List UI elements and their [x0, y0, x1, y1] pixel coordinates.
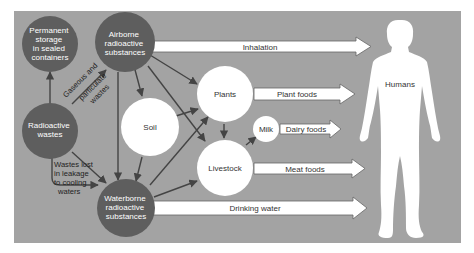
svg-text:Permanent storage: Permanent storage in sealed containers [29, 26, 70, 62]
svg-text:Plants: Plants [214, 90, 236, 99]
node-airborne-substances: Airborne radioactive substances [95, 12, 155, 72]
svg-text:to cooling: to cooling [54, 178, 87, 187]
svg-text:waters: waters [57, 187, 81, 196]
svg-text:Dairy foods: Dairy foods [286, 125, 326, 134]
node-radioactive-wastes: Radioactive wastes [22, 103, 78, 159]
radioactive-pathways-diagram: Humans Inhalation Plant foods Dairy food… [0, 0, 474, 253]
humans-label: Humans [385, 80, 415, 89]
svg-text:Meat foods: Meat foods [285, 165, 325, 174]
node-livestock: Livestock [197, 140, 253, 196]
svg-text:Milk: Milk [259, 125, 274, 134]
node-soil: Soil [121, 98, 179, 156]
node-permanent-storage: Permanent storage in sealed containers [22, 16, 78, 72]
svg-text:Inhalation: Inhalation [243, 43, 278, 52]
node-plants: Plants [197, 66, 253, 122]
svg-text:Soil: Soil [143, 123, 157, 132]
svg-text:Wastes lost: Wastes lost [54, 160, 94, 169]
svg-text:Airborne radioactive: Airborne radioactive substances [105, 30, 146, 57]
node-milk: Milk [253, 116, 279, 142]
svg-text:in leakage: in leakage [54, 169, 89, 178]
svg-text:Waterborne radioactive: Waterborne radioactive substances [104, 194, 148, 221]
node-waterborne-substances: Waterborne radioactive substances [97, 179, 155, 237]
svg-text:Drinking water: Drinking water [229, 204, 280, 213]
svg-text:Plant foods: Plant foods [277, 90, 317, 99]
svg-text:Livestock: Livestock [208, 164, 242, 173]
